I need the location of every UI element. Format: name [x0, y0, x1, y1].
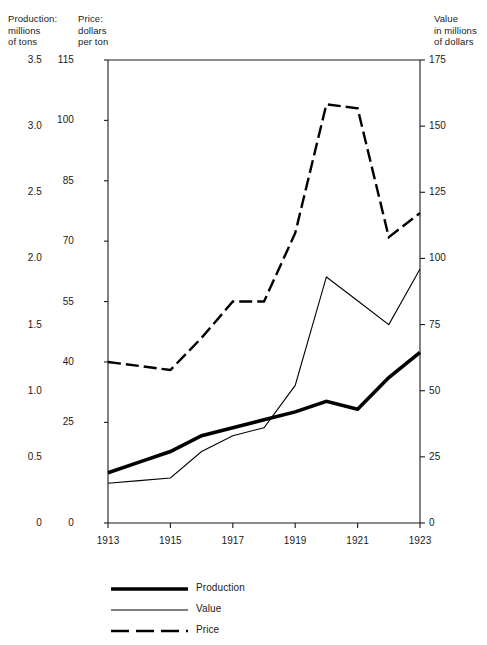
- legend-label-production: Production: [196, 582, 245, 593]
- value-tick-label-6: 150: [429, 120, 469, 131]
- price-tick-label-7: 115: [40, 54, 74, 65]
- price-tick-label-6: 100: [40, 114, 74, 125]
- axis-lines: [108, 60, 420, 523]
- value-tick-label-4: 100: [429, 252, 469, 263]
- value-tick-label-2: 50: [429, 385, 469, 396]
- value-tick-label-5: 125: [429, 186, 469, 197]
- series-line-production: [108, 352, 420, 472]
- price-tick-label-3: 55: [40, 296, 74, 307]
- production-tick-label-1: 0.5: [2, 451, 42, 462]
- production-tick-label-5: 2.5: [2, 186, 42, 197]
- x-tick-label-1: 1915: [147, 535, 193, 546]
- value-tick-label-3: 75: [429, 319, 469, 330]
- production-tick-label-7: 3.5: [2, 54, 42, 65]
- production-tick-label-3: 1.5: [2, 319, 42, 330]
- price-tick-label-1: 25: [40, 416, 74, 427]
- value-tick-label-7: 175: [429, 54, 469, 65]
- production-tick-label-2: 1.0: [2, 385, 42, 396]
- x-tick-label-3: 1919: [272, 535, 318, 546]
- production-tick-label-6: 3.0: [2, 120, 42, 131]
- x-tick-label-4: 1921: [335, 535, 381, 546]
- series-lines: [108, 104, 420, 483]
- right-axis-caption-value: Value in millions of dollars: [434, 13, 477, 48]
- price-tick-label-5: 85: [40, 175, 74, 186]
- legend-label-value: Value: [196, 603, 221, 614]
- production-tick-label-0: 0: [2, 517, 42, 528]
- value-tick-label-0: 0: [429, 517, 469, 528]
- chart-figure: Production: millions of tons Price: doll…: [0, 0, 487, 645]
- price-tick-label-0: 0: [40, 517, 74, 528]
- left-axis-caption-price: Price: dollars per ton: [78, 13, 108, 48]
- x-tick-label-5: 1923: [397, 535, 443, 546]
- series-line-price: [108, 104, 420, 370]
- x-tick-label-2: 1917: [210, 535, 256, 546]
- left-axis-caption-production: Production: millions of tons: [8, 13, 57, 48]
- legend-label-price: Price: [196, 624, 219, 635]
- price-tick-label-2: 40: [40, 356, 74, 367]
- legend-swatches: [111, 589, 188, 631]
- price-tick-label-4: 70: [40, 235, 74, 246]
- value-tick-label-1: 25: [429, 451, 469, 462]
- production-tick-label-4: 2.0: [2, 252, 42, 263]
- x-tick-label-0: 1913: [85, 535, 131, 546]
- plot-area: [0, 0, 487, 645]
